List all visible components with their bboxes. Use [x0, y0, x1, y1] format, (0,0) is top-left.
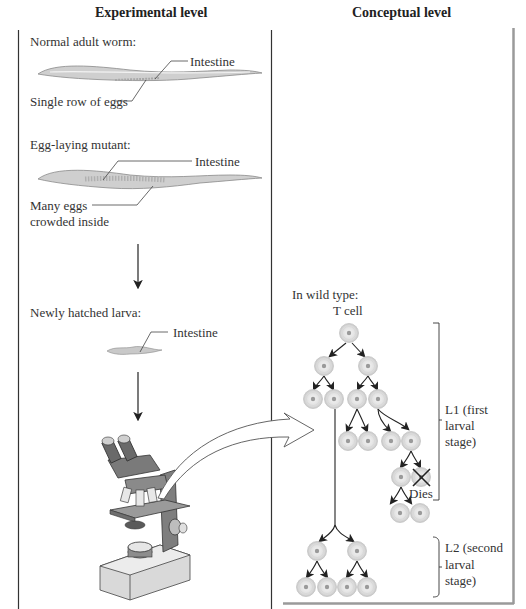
wild-type-title: In wild type:	[292, 287, 358, 302]
l1-stage-label-3: stage)	[445, 434, 476, 449]
mutant-worm-eggs-label-2: crowded inside	[30, 214, 109, 229]
normal-worm-intestine-label: Intestine	[190, 54, 235, 69]
l1-stage-label-2: larval	[445, 418, 475, 433]
larva-intestine-label: Intestine	[173, 325, 218, 340]
cells	[297, 324, 431, 597]
mutant-worm-intestine-label: Intestine	[195, 154, 240, 169]
l2-stage-label-2: larval	[445, 557, 475, 572]
l2-stage-label-3: stage)	[445, 573, 476, 588]
l1-stage-label-1: L1 (first	[445, 402, 488, 417]
transfer-arrow	[158, 413, 314, 499]
microscope-illustration	[100, 435, 190, 600]
larva-illustration	[107, 332, 168, 354]
dies-label: Dies	[409, 486, 433, 501]
mutant-worm-title: Egg-laying mutant:	[30, 137, 131, 152]
normal-worm-title: Normal adult worm:	[30, 34, 136, 49]
normal-worm-eggs-label: Single row of eggs	[30, 94, 128, 109]
mutant-worm-eggs-label-1: Many eggs	[30, 198, 87, 213]
l2-bracket	[433, 537, 442, 597]
l1-bracket	[433, 323, 442, 500]
l2-stage-label-1: L2 (second	[445, 540, 503, 555]
t-cell-label: T cell	[333, 303, 363, 318]
larva-title: Newly hatched larva:	[30, 305, 141, 320]
